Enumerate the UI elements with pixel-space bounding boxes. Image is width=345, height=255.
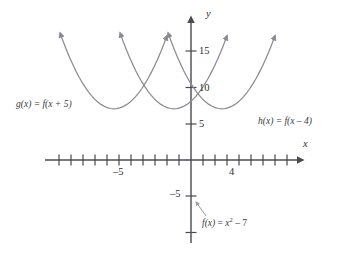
- label-f-tail: – 7: [233, 218, 247, 228]
- label-h-text: h(x) = f(x – 4): [258, 116, 312, 126]
- curve-h: [168, 33, 275, 109]
- label-g-function: g(x) = f(x + 5): [16, 99, 72, 109]
- x-tick-label-minus-5: –5: [113, 166, 124, 177]
- parabola-graph-figure: [0, 0, 345, 255]
- y-tick-label-10: 10: [199, 82, 210, 93]
- y-tick-label-5: 5: [199, 118, 204, 129]
- y-axis-label: y: [206, 8, 211, 19]
- y-tick-label-minus-5: –5: [170, 188, 181, 199]
- label-f-equals: =: [215, 218, 225, 228]
- label-h-function: h(x) = f(x – 4): [258, 116, 312, 126]
- x-axis: [45, 155, 303, 166]
- y-axis: [186, 17, 197, 243]
- label-g-text: g(x) = f(x + 5): [16, 99, 72, 109]
- x-tick-label-4: 4: [229, 166, 234, 177]
- x-axis-label: x: [303, 138, 308, 149]
- label-f-name: f(x): [202, 218, 215, 228]
- curve-f: [120, 33, 227, 109]
- y-tick-label-15: 15: [199, 45, 210, 56]
- curve-g: [60, 33, 167, 109]
- f-label-leader-line: [196, 202, 206, 216]
- label-f-function: f(x) = x2 – 7: [202, 218, 247, 228]
